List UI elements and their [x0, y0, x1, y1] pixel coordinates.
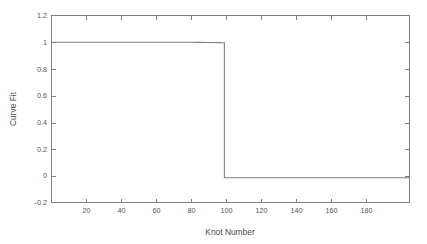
x-tick-label: 160	[326, 206, 338, 215]
x-tick-label: 100	[221, 206, 233, 215]
y-tick-label: 1.2	[37, 11, 47, 20]
plot-background	[51, 15, 410, 203]
x-tick-labels: 20 40 60 80 100 120 140 160 180	[83, 206, 373, 215]
x-tick-label: 80	[188, 206, 196, 215]
y-tick-labels: 1.2 1 0.8 0.6 0.4 0.2 0 -0.2	[35, 11, 47, 207]
x-axis-title: Knot Number	[205, 227, 255, 237]
y-tick-label: 1	[43, 38, 47, 47]
x-tick-label: 120	[256, 206, 268, 215]
y-tick-label: 0.4	[37, 118, 47, 127]
x-tick-label: 60	[153, 206, 161, 215]
x-tick-label: 40	[118, 206, 126, 215]
x-tick-label: 20	[83, 206, 91, 215]
x-tick-label: 140	[291, 206, 303, 215]
y-tick-label: -0.2	[35, 198, 47, 207]
y-axis-title: Curve Fit	[8, 91, 18, 126]
y-tick-label: 0.8	[37, 65, 47, 74]
y-tick-label: 0.6	[37, 91, 47, 100]
chart-figure: 1.2 1 0.8 0.6 0.4 0.2 0 -0.2 20 40 60 80…	[0, 0, 427, 244]
curve-fit-line-chart: 1.2 1 0.8 0.6 0.4 0.2 0 -0.2 20 40 60 80…	[0, 0, 427, 244]
x-tick-label: 180	[361, 206, 373, 215]
y-tick-label: 0.2	[37, 145, 47, 154]
y-tick-label: 0	[43, 171, 47, 180]
